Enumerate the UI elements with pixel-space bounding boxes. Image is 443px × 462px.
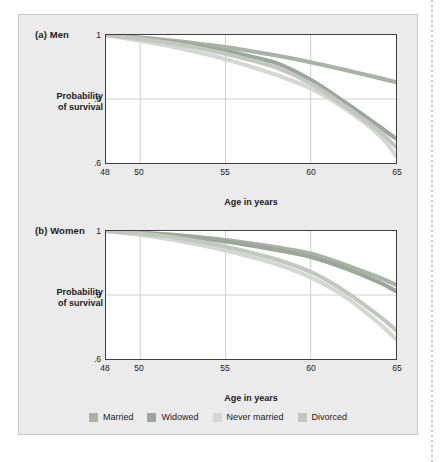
plot-svg-women: [106, 231, 396, 359]
x-tick-women-55: 55: [213, 363, 237, 373]
panel-title-men: (a) Men: [35, 29, 69, 40]
x-tick-men-48: 48: [93, 167, 117, 177]
y-tick-men-1: 1: [79, 30, 101, 40]
plot-area-women: [105, 230, 397, 360]
series-lines-men: [106, 35, 396, 156]
legend-swatch-icon: [298, 413, 307, 422]
y-tick-men-08: .8: [79, 94, 101, 104]
legend-item-married: Married: [89, 412, 134, 422]
legend-swatch-icon: [213, 413, 222, 422]
x-tick-women-65: 65: [385, 363, 409, 373]
series-lines-women: [106, 231, 396, 339]
x-tick-women-48: 48: [93, 363, 117, 373]
legend-label: Widowed: [161, 412, 198, 422]
x-tick-men-65: 65: [385, 167, 409, 177]
legend-label: Married: [103, 412, 134, 422]
x-axis-label-men: Age in years: [103, 197, 399, 207]
y-tick-women-08: .8: [79, 290, 101, 300]
legend-swatch-icon: [147, 413, 156, 422]
legend-item-divorced: Divorced: [298, 412, 348, 422]
legend-item-never-married: Never married: [213, 412, 284, 422]
series-line: [106, 231, 396, 291]
legend-swatch-icon: [89, 413, 98, 422]
x-tick-women-60: 60: [299, 363, 323, 373]
panel-men: (a) Men Probability of survival 1 .8 .6 …: [19, 19, 417, 215]
legend-label: Never married: [227, 412, 284, 422]
x-tick-men-60: 60: [299, 167, 323, 177]
legend-item-widowed: Widowed: [147, 412, 198, 422]
page-edge-dotted-rule: [431, 0, 433, 462]
x-tick-men-55: 55: [213, 167, 237, 177]
x-axis-label-women: Age in years: [103, 393, 399, 403]
plot-svg-men: [106, 35, 396, 163]
x-tick-women-50: 50: [127, 363, 151, 373]
x-tick-men-50: 50: [127, 167, 151, 177]
chart-legend: Married Widowed Never married Divorced: [19, 412, 417, 422]
y-tick-women-1: 1: [79, 226, 101, 236]
figure-card: (a) Men Probability of survival 1 .8 .6 …: [18, 14, 418, 435]
plot-area-men: [105, 34, 397, 164]
gridlines-men: [106, 35, 396, 163]
legend-label: Divorced: [312, 412, 348, 422]
panel-title-women: (b) Women: [35, 225, 85, 236]
panel-women: (b) Women Probability of survival 1 .8 .…: [19, 215, 417, 411]
